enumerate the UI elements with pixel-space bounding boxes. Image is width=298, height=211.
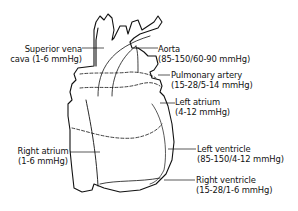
right-ventricle-name: Right ventricle [196, 175, 272, 185]
rv-lower-line [100, 178, 160, 184]
label-left-atrium: Left atrium (4-12 mmHg) [175, 97, 230, 117]
heart-outline [68, 14, 174, 192]
label-left-ventricle: Left ventricle (85-150/4-12 mmHg) [197, 144, 284, 164]
svc-edge [96, 28, 98, 66]
label-aorta: Aorta (85-150/60-90 mmHg) [158, 44, 250, 64]
lv-inner-curve [150, 104, 166, 184]
aorta-arch-line [136, 46, 138, 72]
av-groove-dashed [72, 124, 162, 138]
aorta-arch [98, 36, 150, 96]
pulmonary-name: Pulmonary artery [171, 70, 253, 80]
aorta-name: Aorta [158, 44, 250, 54]
right-ventricle-pressure: (15-28/1-6 mmHg) [196, 185, 272, 195]
left-ventricle-name: Left ventricle [197, 144, 284, 154]
label-pulmonary-artery: Pulmonary artery (15-28/5-14 mmHg) [171, 70, 253, 90]
left-ventricle-pressure: (85-150/4-12 mmHg) [197, 154, 284, 164]
right-atrium-name: Right atrium [14, 146, 72, 156]
right-atrium-pressure: (1-6 mmHg) [14, 156, 72, 166]
svc-name: Superior vena [10, 44, 82, 54]
pulmonary-pressure: (15-28/5-14 mmHg) [171, 80, 253, 90]
left-atrium-name: Left atrium [175, 97, 230, 107]
left-atrium-pressure: (4-12 mmHg) [175, 107, 230, 117]
aorta-pressure: (85-150/60-90 mmHg) [158, 54, 250, 64]
atrium-dashed [80, 83, 160, 88]
pulmonary-dashed [80, 72, 156, 78]
svc-pressure: cava (1-6 mmHg) [10, 54, 82, 64]
label-right-atrium: Right atrium (1-6 mmHg) [14, 146, 72, 166]
label-superior-vena-cava: Superior vena cava (1-6 mmHg) [10, 44, 82, 64]
label-right-ventricle: Right ventricle (15-28/1-6 mmHg) [196, 175, 272, 195]
right-atrium-line [86, 100, 98, 186]
